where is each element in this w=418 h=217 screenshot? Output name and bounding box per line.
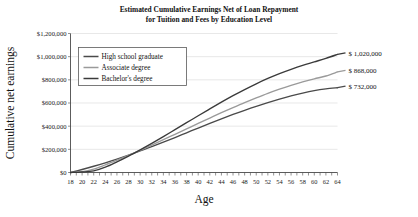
x-axis-tick-label: 18	[67, 178, 73, 185]
x-axis-tick-label: 50	[253, 178, 259, 185]
x-axis-tick-label: 58	[299, 178, 305, 185]
chart-title-line-2: for Tuition and Fees by Education Level	[146, 15, 272, 24]
x-axis-title: Age	[194, 193, 213, 206]
x-axis-tick-label: 40	[195, 178, 201, 185]
y-axis-tick-label: $200,000	[42, 146, 67, 153]
x-axis-tick-label: 38	[183, 178, 189, 185]
series-end-value-label: $ 868,000	[349, 67, 378, 75]
y-axis-tick-label: $1,000,000	[37, 53, 67, 60]
x-axis-tick-label: 34	[160, 178, 167, 185]
x-axis-tick-label: 32	[149, 178, 155, 185]
end-label-leader	[338, 86, 346, 88]
y-axis-title: Cumulative net earnings	[4, 46, 17, 159]
series-end-value-label: $ 1,020,000	[349, 50, 383, 58]
x-axis-tick-label: 20	[79, 178, 85, 185]
x-axis-tick-label: 56	[288, 178, 294, 185]
x-axis-tick-label: 64	[334, 178, 341, 185]
earnings-line-chart: Estimated Cumulative Earnings Net of Loa…	[0, 0, 418, 217]
end-label-leader	[338, 70, 346, 72]
legend-label: High school graduate	[102, 53, 163, 61]
x-axis-tick-label: 54	[276, 178, 283, 185]
chart-title-line-1: Estimated Cumulative Earnings Net of Loa…	[120, 5, 299, 14]
x-axis-tick-label: 52	[265, 178, 271, 185]
x-axis-tick-label: 22	[91, 178, 97, 185]
x-axis-tick-label: 30	[137, 178, 143, 185]
x-axis-tick-label: 26	[114, 178, 120, 185]
x-axis-tick-label: 24	[102, 178, 109, 185]
x-axis-tick-label: 36	[172, 178, 178, 185]
y-axis-tick-label: $600,000	[42, 99, 67, 106]
y-axis-tick-label: $800,000	[42, 76, 67, 83]
series-line	[71, 88, 338, 173]
x-axis-tick-label: 44	[218, 178, 225, 185]
x-axis-tick-label: 46	[230, 178, 236, 185]
series-end-value-label: $ 732,000	[349, 83, 378, 91]
legend-label: Bachelor's degree	[102, 75, 153, 83]
y-axis-tick-label: $400,000	[42, 123, 67, 130]
x-axis-tick-label: 28	[125, 178, 131, 185]
y-axis-tick-label: $0	[60, 169, 67, 176]
x-axis-tick-label: 48	[241, 178, 247, 185]
x-axis-tick-label: 62	[323, 178, 329, 185]
end-label-leader	[338, 53, 346, 55]
y-axis-tick-label: $1,200,000	[37, 30, 67, 37]
x-axis-tick-label: 60	[311, 178, 317, 185]
chart-container: Estimated Cumulative Earnings Net of Loa…	[0, 0, 418, 217]
legend-label: Associate degree	[102, 64, 151, 72]
series-line	[71, 72, 338, 173]
x-axis-tick-label: 42	[207, 178, 213, 185]
